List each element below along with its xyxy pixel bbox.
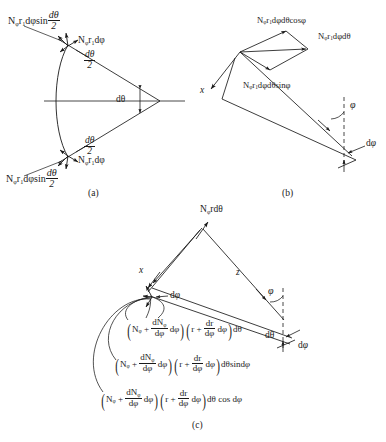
panel-a-top-outer-label: Nφr1dφsindθ2 <box>8 10 60 31</box>
panel-c-formula-3: (Nφ + dNφdφ dφ)(r + drdφ dφ)dθ cos dφ <box>100 388 242 412</box>
panel-b-angle-dphi-label: dφ <box>366 139 376 149</box>
panel-b-top-label: Nφr1dφdθcosφ <box>257 16 306 26</box>
panel-c-top-label: Nφrdθ <box>200 205 223 216</box>
figure-root: Nφr1dφsindθ2 Nφr1dφ dθ2 dθ dθ2 Nφr1dφ Nφ… <box>0 0 386 442</box>
panel-b-middle-label: Nφr1dφdθsinφ <box>243 81 291 91</box>
panel-a-center-angle-label: dθ <box>116 95 125 105</box>
panel-b-angle-phi-label: φ <box>350 100 356 110</box>
panel-a-bottom-angle-label: dθ2 <box>84 136 95 156</box>
panel-c-dphi-left-label: dφ <box>170 291 180 301</box>
panel-b-caption: (b) <box>282 188 293 198</box>
panel-a-bottom-inner-label: Nφr1dφ <box>78 156 105 167</box>
panel-c-caption: (c) <box>192 420 203 430</box>
panel-a-caption: (a) <box>88 188 99 198</box>
panel-c-angle-phi-label: φ <box>268 286 274 296</box>
panel-c-angle-dphi-label: dφ <box>298 341 308 351</box>
panel-c-formula-1: (Nφ + dNφdφ dφ)(r + drdφ dφ)dθ <box>126 318 242 342</box>
panel-a-top-inner-label: Nφr1dφ <box>78 36 105 47</box>
panel-c-formula-2: (Nφ + dNφdφ dφ)(r + drdφ dφ)dθsindφ <box>114 353 250 377</box>
panel-c-angle-dtheta-label: dθ <box>265 331 274 341</box>
panel-c-axis-z-label: z <box>236 268 240 278</box>
panel-b-axis-x-label: x <box>200 86 204 96</box>
panel-a-top-angle-label: dθ2 <box>84 50 95 70</box>
panel-a-bottom-outer-label: Nφr1dφsindθ2 <box>6 168 58 189</box>
panel-b-right-label: Nφr1dφdθ <box>318 32 351 42</box>
panel-c-axis-x-label: x <box>139 266 143 276</box>
